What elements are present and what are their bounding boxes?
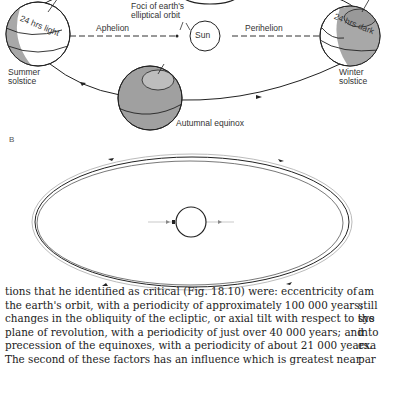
body-paragraph: tions that he identified as critical (Fi… (5, 285, 341, 367)
winter-solstice-label-line2: solstice (339, 77, 367, 86)
side-column-text: am still sys into exa par (358, 285, 406, 367)
foci-label-line2: elliptical orbit (131, 11, 180, 20)
body-line: the earth's orbit, with a periodicity of… (5, 299, 341, 313)
perihelion-label: Perihelion (245, 24, 283, 33)
side-line: into (358, 326, 406, 340)
side-line: par (358, 353, 406, 367)
summer-solstice-label-line2: solstice (8, 77, 36, 86)
earth-winter-globe (320, 0, 390, 66)
autumnal-equinox-label: Autumnal equinox (176, 119, 244, 128)
panel-label-b: B (9, 135, 14, 144)
body-line: The second of these factors has an influ… (5, 353, 341, 367)
orbit-diagram-b (0, 150, 406, 300)
sun-label: Sun (195, 31, 210, 40)
aphelion-label: Aphelion (96, 24, 129, 33)
side-line: am (358, 285, 406, 299)
side-line: still (358, 299, 406, 313)
side-line: exa (358, 339, 406, 353)
sun-icon-b (176, 207, 206, 237)
earth-autumn-icon (118, 64, 182, 130)
body-line: tions that he identified as critical (Fi… (5, 285, 341, 299)
side-line: sys (358, 312, 406, 326)
body-line: precession of the equinoxes, with a peri… (5, 339, 341, 353)
body-line: plane of revolution, with a periodicity … (5, 326, 341, 340)
body-line: changes in the obliquity of the ecliptic… (5, 312, 341, 326)
